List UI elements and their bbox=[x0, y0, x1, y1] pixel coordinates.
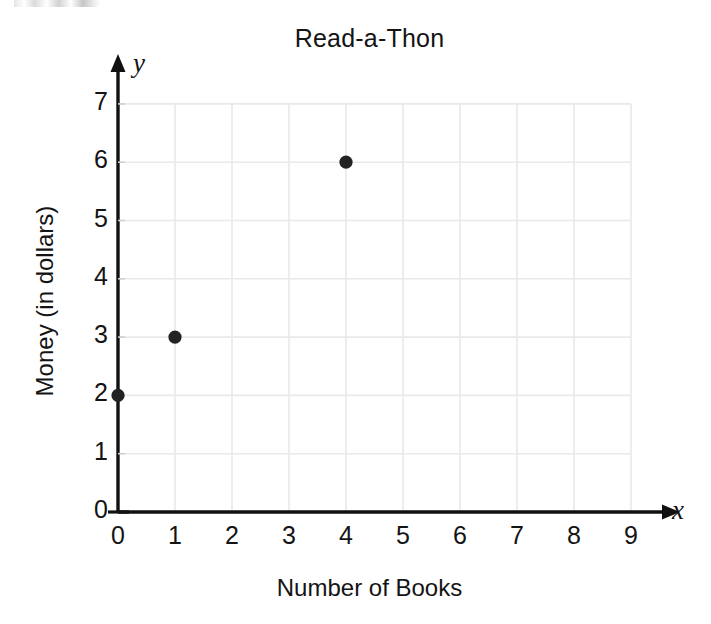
y-tick-label: 2 bbox=[84, 378, 108, 407]
x-tick-label: 7 bbox=[502, 521, 532, 550]
x-tick-label: 2 bbox=[217, 521, 247, 550]
read-a-thon-scatter-chart: Read-a-Thon Money (in dollars) Number of… bbox=[0, 0, 711, 624]
y-tick-label: 0 bbox=[84, 495, 108, 524]
y-tick-label: 1 bbox=[84, 437, 108, 466]
x-tick-label: 1 bbox=[160, 521, 190, 550]
x-tick-label: 5 bbox=[388, 521, 418, 550]
y-axis-arrowhead bbox=[111, 54, 126, 72]
data-point bbox=[168, 331, 181, 344]
x-tick-label: 3 bbox=[274, 521, 304, 550]
x-tick-label: 6 bbox=[445, 521, 475, 550]
x-axis-arrowhead bbox=[662, 505, 680, 520]
gridlines bbox=[118, 104, 631, 512]
y-tick-label: 4 bbox=[84, 262, 108, 291]
y-tick-label: 7 bbox=[84, 87, 108, 116]
y-tick-label: 3 bbox=[84, 320, 108, 349]
x-tick-label: 8 bbox=[559, 521, 589, 550]
x-tick-label: 4 bbox=[331, 521, 361, 550]
y-tick-label: 5 bbox=[84, 204, 108, 233]
x-tick-label: 9 bbox=[616, 521, 646, 550]
x-tick-label: 0 bbox=[103, 521, 133, 550]
axis-lines bbox=[108, 54, 680, 520]
data-point bbox=[111, 389, 124, 402]
y-tick-label: 6 bbox=[84, 145, 108, 174]
data-point bbox=[339, 156, 352, 169]
